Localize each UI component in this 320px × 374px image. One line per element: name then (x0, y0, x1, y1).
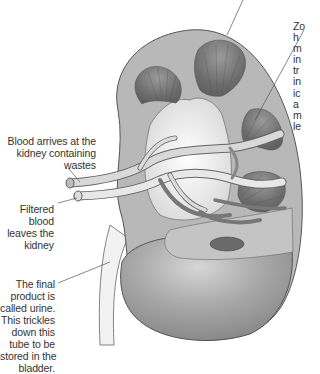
label-line: down this (0, 326, 55, 338)
label-line: wastes (0, 159, 96, 171)
label-line: kidney (0, 239, 54, 251)
label-filtered-blood: Filtered blood leaves the kidney (0, 203, 54, 251)
label-blood-arrives: Blood arrives at the kidney containing w… (0, 135, 96, 171)
label-line: le (293, 121, 320, 132)
label-line: Blood arrives at the (0, 135, 96, 147)
vein-end (74, 191, 82, 201)
label-line: blood (0, 215, 54, 227)
label-line: The final (0, 278, 55, 290)
label-zone-truncated: Zo h m in tr in ic a m le (293, 21, 320, 132)
label-line: bladder. (0, 362, 55, 374)
label-urine: The final product is called urine. This … (0, 278, 55, 374)
label-line: stored in the (0, 350, 55, 362)
label-line: ic (293, 88, 320, 99)
label-line: tube to be (0, 338, 55, 350)
label-line: Filtered (0, 203, 54, 215)
label-line: in (293, 76, 320, 87)
label-line: product is (0, 290, 55, 302)
artery-end (66, 178, 74, 188)
label-line: kidney containing (0, 147, 96, 159)
label-line: leaves the (0, 227, 54, 239)
label-line: called urine. (0, 302, 55, 314)
cut-vessel-hole (210, 237, 244, 251)
label-line: This trickles (0, 314, 55, 326)
